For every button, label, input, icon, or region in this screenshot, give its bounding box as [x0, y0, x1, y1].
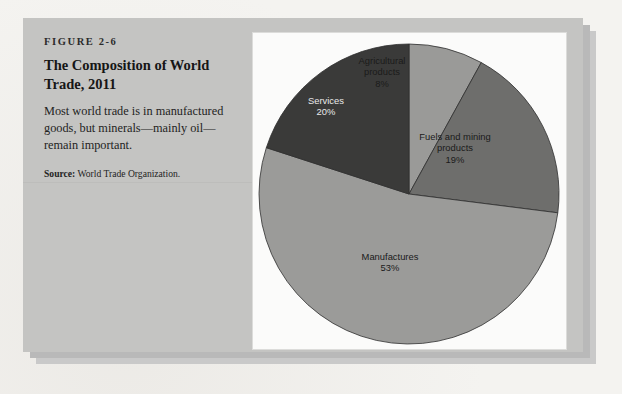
pie-label-fuels-and-mining-products: Fuels and mining products 19% — [405, 131, 505, 165]
pie-label-line2: products — [405, 142, 505, 153]
caption-divider — [23, 182, 252, 183]
pie-label-line1: Services — [289, 95, 363, 106]
pie-label-value: 53% — [335, 262, 445, 273]
pie-label-line1: Fuels and mining — [405, 131, 505, 142]
pie-label-value: 19% — [405, 154, 505, 165]
figure-description: Most world trade is in manufactured good… — [44, 103, 240, 154]
pie-label-line1: Agricultural — [345, 55, 419, 66]
source-label: Source: — [44, 168, 75, 179]
figure-number: FIGURE 2-6 — [44, 36, 240, 47]
figure-source: Source: World Trade Organization. — [44, 168, 240, 179]
pie-chart-container: Agricultural products 8% Fuels and minin… — [252, 32, 567, 350]
pie-label-value: 20% — [289, 106, 363, 117]
pie-label-line2: products — [345, 66, 419, 77]
pie-label-manufactures: Manufactures 53% — [335, 251, 445, 274]
source-text: World Trade Organization. — [75, 168, 180, 179]
pie-label-agricultural-products: Agricultural products 8% — [345, 55, 419, 89]
figure-title: The Composition of World Trade, 2011 — [44, 56, 240, 93]
figure-caption-block: FIGURE 2-6 The Composition of World Trad… — [44, 36, 240, 179]
pie-label-line1: Manufactures — [335, 251, 445, 262]
figure-panel: FIGURE 2-6 The Composition of World Trad… — [23, 18, 583, 352]
pie-label-services: Services 20% — [289, 95, 363, 118]
pie-label-value: 8% — [345, 78, 419, 89]
